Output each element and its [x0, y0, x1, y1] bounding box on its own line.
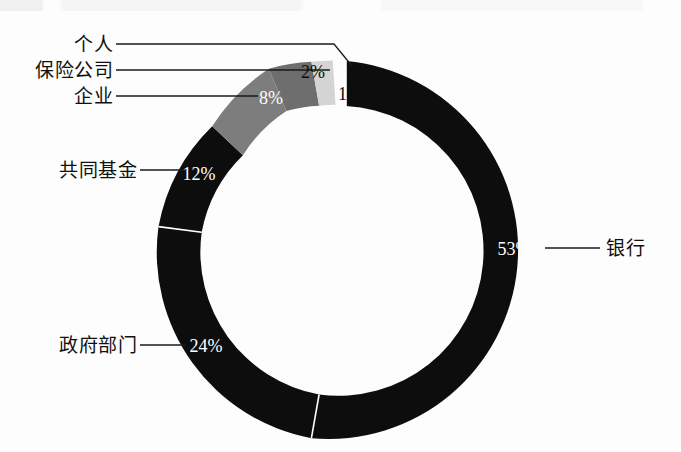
callout-label-bank: 银行 — [606, 238, 645, 259]
callout-labels: 个人 保险公司 企业 共同基金 政府部门 银行 — [35, 34, 645, 356]
callout-label-insurance: 保险公司 — [35, 60, 113, 81]
donut-chart: 个人 保险公司 企业 共同基金 政府部门 银行 2% 1% 8% 12% 24%… — [0, 0, 681, 452]
donut-slice-government[interactable] — [157, 227, 319, 439]
chart-canvas: 个人 保险公司 企业 共同基金 政府部门 银行 2% 1% 8% 12% 24%… — [0, 0, 681, 452]
value-label-government: 24% — [190, 336, 223, 356]
value-label-individual: 1% — [338, 84, 362, 104]
value-label-bank: 53% — [498, 239, 531, 259]
donut-slice-bank[interactable] — [311, 61, 518, 439]
value-label-mutual-fund: 12% — [183, 164, 216, 184]
donut-segments — [157, 60, 518, 439]
callout-label-individual: 个人 — [74, 34, 113, 55]
value-label-insurance: 2% — [301, 62, 325, 82]
value-label-enterprise: 8% — [259, 88, 283, 108]
callout-label-government: 政府部门 — [59, 335, 137, 356]
callout-label-mutual-fund: 共同基金 — [59, 160, 137, 181]
callout-label-enterprise: 企业 — [74, 86, 113, 107]
